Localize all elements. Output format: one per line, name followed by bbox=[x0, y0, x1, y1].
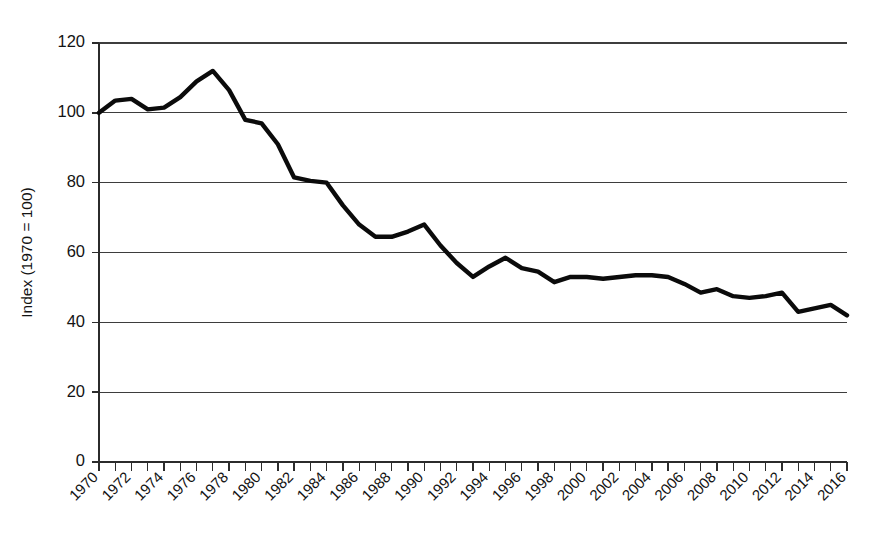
y-tick-label-80: 80 bbox=[67, 172, 85, 190]
y-tick-label-40: 40 bbox=[67, 312, 85, 330]
gridlines bbox=[99, 43, 847, 392]
x-tick-labels: 1970197219741976197819801982198419861988… bbox=[66, 468, 850, 504]
x-tick-label-1976: 1976 bbox=[163, 468, 199, 504]
x-tick-label-1990: 1990 bbox=[391, 468, 427, 504]
x-tick-label-1986: 1986 bbox=[326, 468, 362, 504]
x-tick-label-2012: 2012 bbox=[748, 468, 784, 504]
chart-canvas: 020406080100120 197019721974197619781980… bbox=[0, 0, 890, 541]
x-tick-label-1982: 1982 bbox=[261, 468, 297, 504]
x-tick-label-1994: 1994 bbox=[456, 468, 492, 504]
x-tick-label-2008: 2008 bbox=[683, 468, 719, 504]
y-axis bbox=[92, 43, 99, 462]
y-tick-label-120: 120 bbox=[57, 32, 85, 50]
x-tick-label-1984: 1984 bbox=[293, 468, 329, 504]
y-tick-label-20: 20 bbox=[67, 382, 85, 400]
y-tick-label-100: 100 bbox=[57, 102, 85, 120]
x-tick-label-1998: 1998 bbox=[521, 468, 557, 504]
data-series bbox=[99, 71, 847, 315]
x-tick-label-2002: 2002 bbox=[586, 468, 622, 504]
y-axis-title-text: Index (1970 = 100) bbox=[18, 187, 35, 318]
x-tick-label-2006: 2006 bbox=[651, 468, 687, 504]
x-tick-label-2000: 2000 bbox=[553, 468, 589, 504]
y-tick-label-60: 60 bbox=[67, 242, 85, 260]
x-tick-label-1992: 1992 bbox=[423, 468, 459, 504]
x-tick-label-2004: 2004 bbox=[618, 468, 654, 504]
x-tick-label-1996: 1996 bbox=[488, 468, 524, 504]
x-tick-label-2010: 2010 bbox=[716, 468, 752, 504]
y-tick-label-0: 0 bbox=[76, 451, 85, 469]
x-axis bbox=[99, 462, 847, 471]
line-chart: 020406080100120 197019721974197619781980… bbox=[0, 0, 890, 541]
x-tick-label-1978: 1978 bbox=[196, 468, 232, 504]
x-tick-label-1980: 1980 bbox=[228, 468, 264, 504]
y-axis-title: Index (1970 = 100) bbox=[18, 187, 35, 318]
y-tick-labels: 020406080100120 bbox=[57, 32, 85, 469]
data-line-0 bbox=[99, 71, 847, 315]
x-tick-label-1972: 1972 bbox=[98, 468, 134, 504]
x-tick-label-1988: 1988 bbox=[358, 468, 394, 504]
x-tick-label-2016: 2016 bbox=[814, 468, 850, 504]
x-tick-label-1974: 1974 bbox=[131, 468, 167, 504]
x-tick-label-2014: 2014 bbox=[781, 468, 817, 504]
x-tick-label-1970: 1970 bbox=[66, 468, 102, 504]
